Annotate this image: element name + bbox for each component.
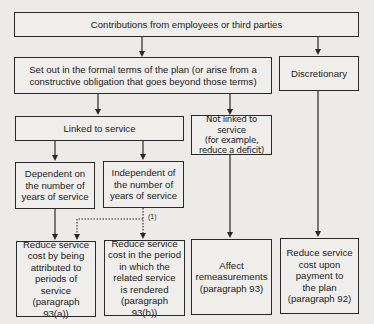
linked-to-service-label: Linked to service <box>64 123 136 134</box>
independent-label: Independent of the number of years of se… <box>110 167 177 201</box>
independent-box: Independent of the number of years of se… <box>103 161 184 208</box>
outcome-b-label: Reduce service cost in the period in whi… <box>107 238 182 318</box>
linked-to-service-box: Linked to service <box>15 116 184 141</box>
dotted-note-label: (1) <box>148 213 157 220</box>
not-linked-to-service-label: Not linked to service (for example, redu… <box>194 114 269 156</box>
outcome-a-box: Reduce service cost by being attributed … <box>16 241 96 317</box>
discretionary-box: Discretionary <box>279 56 359 91</box>
formal-terms-label: Set out in the formal terms of the plan … <box>29 64 257 87</box>
formal-terms-box: Set out in the formal terms of the plan … <box>14 57 272 94</box>
dependent-box: Dependent on the number of years of serv… <box>15 162 95 209</box>
discretionary-label: Discretionary <box>291 68 347 79</box>
contributions-box: Contributions from employees or third pa… <box>14 12 359 37</box>
outcome-b-box: Reduce service cost in the period in whi… <box>104 240 185 316</box>
outcome-c-label: Affect remeasurements (paragraph 93) <box>196 260 268 294</box>
outcome-d-label: Reduce service cost upon payment to the … <box>286 247 352 304</box>
not-linked-to-service-box: Not linked to service (for example, redu… <box>191 115 272 155</box>
outcome-a-label: Reduce service cost by being attributed … <box>19 239 93 319</box>
outcome-d-box: Reduce service cost upon payment to the … <box>280 238 359 314</box>
contributions-label: Contributions from employees or third pa… <box>91 19 282 30</box>
outcome-c-box: Affect remeasurements (paragraph 93) <box>191 239 272 315</box>
dependent-label: Dependent on the number of years of serv… <box>21 168 88 202</box>
